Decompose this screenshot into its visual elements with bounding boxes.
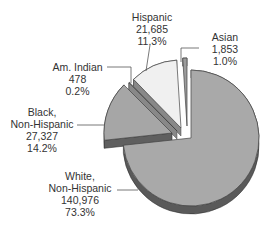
label-am-indian-percent: 0.2% (45, 85, 110, 97)
label-hispanic-percent: 11.3% (117, 35, 187, 47)
label-black-name: Black, (6, 106, 78, 118)
label-black: Black, Non-Hispanic 27,327 14.2% (6, 106, 78, 154)
label-white-name: White, (44, 170, 116, 182)
label-white-percent: 73.3% (44, 206, 116, 218)
leader-am-indian (107, 67, 131, 83)
label-am-indian: Am. Indian 478 0.2% (45, 61, 110, 97)
label-white-name-2: Non-Hispanic (44, 182, 116, 194)
slice-asian (183, 58, 187, 126)
label-asian-percent: 1.0% (200, 55, 250, 67)
label-white: White, Non-Hispanic 140,976 73.3% (44, 170, 116, 218)
label-black-value: 27,327 (6, 130, 78, 142)
label-am-indian-value: 478 (45, 73, 110, 85)
label-am-indian-name: Am. Indian (45, 61, 110, 73)
label-hispanic: Hispanic 21,685 11.3% (117, 11, 187, 47)
label-asian: Asian 1,853 1.0% (200, 31, 250, 67)
label-asian-name: Asian (200, 31, 250, 43)
label-hispanic-value: 21,685 (117, 23, 187, 35)
label-white-value: 140,976 (44, 194, 116, 206)
label-black-name-2: Non-Hispanic (6, 118, 78, 130)
leader-hispanic (146, 45, 150, 71)
label-hispanic-name: Hispanic (117, 11, 187, 23)
label-asian-value: 1,853 (200, 43, 250, 55)
label-black-percent: 14.2% (6, 142, 78, 154)
